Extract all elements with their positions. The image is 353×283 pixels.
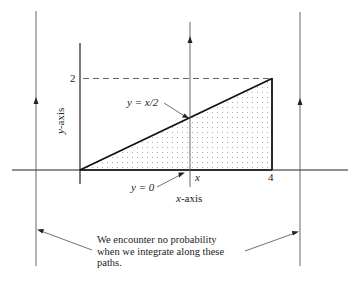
lower-line-label: y = 0 (131, 182, 154, 193)
arrow-up-icon (298, 98, 303, 105)
annotation-line-3: paths. (97, 257, 224, 269)
y-tick-2-label: 2 (70, 73, 76, 84)
arrow-icon (179, 173, 186, 178)
arrow-icon (292, 231, 299, 236)
annotation-leader-right (245, 233, 295, 251)
diagram-canvas: 2 y = x/2 y-axis y = 0 x 4 x-axis We enc… (0, 0, 353, 283)
arrow-icon (37, 229, 44, 234)
annotation-line-2: when we integrate along these (97, 246, 224, 258)
annotation-line-1: We encounter no probability (97, 234, 224, 246)
leader-line-lower (157, 174, 182, 187)
upper-line-label: y = x/2 (127, 97, 158, 108)
x-tick-4-label: 4 (268, 172, 274, 183)
annotation-text: We encounter no probability when we inte… (97, 234, 224, 269)
annotation-leader-left (41, 231, 92, 250)
arrow-up-icon (188, 36, 193, 43)
arrow-up-icon (34, 97, 39, 104)
x-tick-x-label: x (195, 172, 200, 183)
leader-line-upper (164, 103, 186, 117)
x-axis-label: x-axis (176, 193, 202, 204)
arrow-icon (182, 114, 189, 119)
y-axis-label: y-axis (55, 108, 66, 134)
